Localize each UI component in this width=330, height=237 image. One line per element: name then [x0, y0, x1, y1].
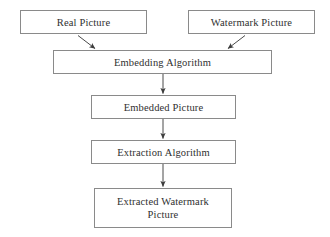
- edge-watermark-to-embedding: [228, 36, 245, 49]
- node-extracted-watermark-picture: Extracted Watermark Picture: [94, 188, 232, 228]
- node-extracted-watermark-picture-label: Extracted Watermark Picture: [95, 195, 231, 221]
- node-real-picture-label: Real Picture: [21, 16, 146, 29]
- node-embedding-algorithm-label: Embedding Algorithm: [54, 56, 271, 69]
- edge-real-to-embedding: [78, 36, 95, 49]
- node-embedded-picture-label: Embedded Picture: [92, 101, 235, 114]
- node-extraction-algorithm-label: Extraction Algorithm: [92, 146, 235, 159]
- node-extraction-algorithm: Extraction Algorithm: [91, 140, 236, 164]
- flowchart-diagram: Real Picture Watermark Picture Embedding…: [0, 0, 330, 237]
- node-watermark-picture-label: Watermark Picture: [189, 16, 314, 29]
- node-embedding-algorithm: Embedding Algorithm: [53, 50, 272, 74]
- node-watermark-picture: Watermark Picture: [188, 10, 315, 34]
- node-real-picture: Real Picture: [20, 10, 147, 34]
- node-embedded-picture: Embedded Picture: [91, 95, 236, 119]
